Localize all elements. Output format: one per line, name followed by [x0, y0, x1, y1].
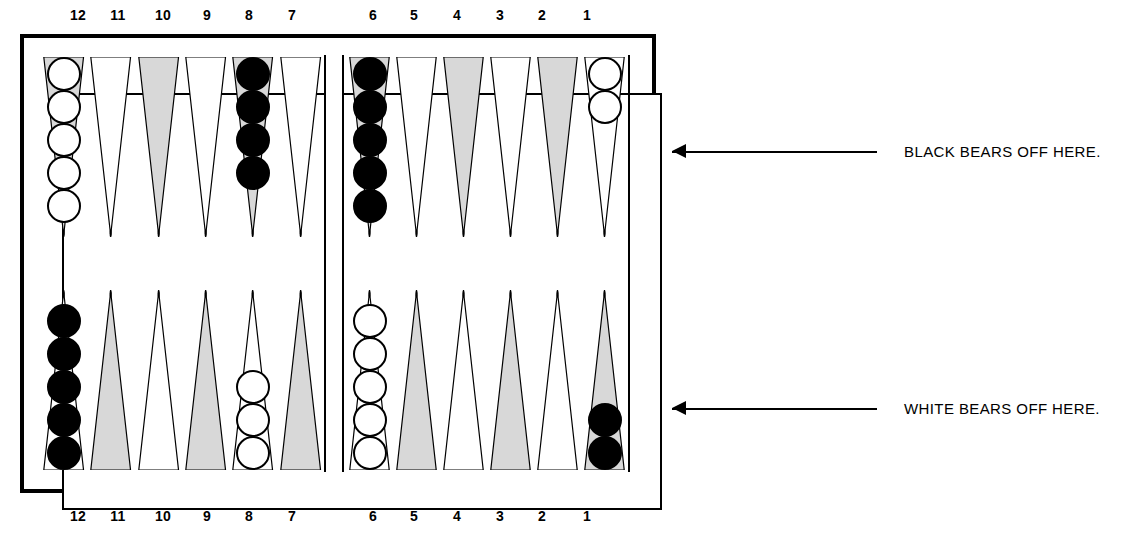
checker-stack[interactable]	[346, 305, 393, 470]
checker-black[interactable]	[47, 370, 81, 404]
point-label-top-5: 5	[402, 4, 426, 26]
checker-stack[interactable]	[40, 305, 87, 470]
point-1[interactable]	[581, 57, 628, 237]
point-4[interactable]	[440, 57, 487, 237]
checker-black[interactable]	[47, 403, 81, 437]
checker-white[interactable]	[236, 370, 270, 404]
point-6[interactable]	[346, 57, 393, 237]
quadrant-bottom-left	[40, 290, 324, 470]
point-5[interactable]	[393, 290, 440, 470]
point-apex-nib	[63, 229, 65, 237]
point-label-top-2: 2	[530, 4, 554, 26]
checker-white[interactable]	[47, 156, 81, 190]
point-label-bottom-6: 6	[361, 505, 385, 527]
point-2[interactable]	[534, 57, 581, 237]
point-2[interactable]	[534, 290, 581, 470]
checker-white[interactable]	[353, 337, 387, 371]
checker-black[interactable]	[47, 304, 81, 338]
checker-black[interactable]	[588, 436, 622, 470]
point-10[interactable]	[135, 290, 182, 470]
point-shape	[135, 57, 182, 237]
checker-black[interactable]	[353, 90, 387, 124]
point-apex-nib	[415, 229, 417, 237]
point-12[interactable]	[40, 290, 87, 470]
point-triangle	[91, 57, 131, 235]
checker-black[interactable]	[236, 123, 270, 157]
point-triangle	[491, 292, 530, 470]
checker-black[interactable]	[236, 57, 270, 91]
checker-stack[interactable]	[581, 57, 628, 123]
backgammon-diagram: 121110987654321 121110987654321 BLACK BE…	[0, 0, 1129, 537]
point-triangle	[138, 292, 178, 470]
point-apex-nib	[110, 290, 112, 298]
point-apex-nib	[603, 290, 605, 298]
checker-black[interactable]	[47, 337, 81, 371]
checker-white[interactable]	[588, 90, 622, 124]
point-12[interactable]	[40, 57, 87, 237]
point-9[interactable]	[182, 290, 229, 470]
point-6[interactable]	[346, 290, 393, 470]
point-label-top-4: 4	[445, 4, 469, 26]
point-triangle	[491, 57, 530, 235]
point-4[interactable]	[440, 290, 487, 470]
checker-stack[interactable]	[581, 404, 628, 470]
point-apex-nib	[110, 229, 112, 237]
point-8[interactable]	[229, 290, 276, 470]
checker-black[interactable]	[353, 189, 387, 223]
point-labels-top: 121110987654321	[0, 4, 680, 26]
point-7[interactable]	[277, 57, 324, 237]
checker-white[interactable]	[353, 436, 387, 470]
point-labels-bottom: 121110987654321	[0, 505, 680, 527]
checker-black[interactable]	[353, 57, 387, 91]
point-3[interactable]	[487, 57, 534, 237]
point-shape	[487, 57, 534, 237]
point-3[interactable]	[487, 290, 534, 470]
checker-white[interactable]	[236, 436, 270, 470]
checker-black[interactable]	[588, 403, 622, 437]
point-shape	[182, 57, 229, 237]
checker-black[interactable]	[353, 123, 387, 157]
checker-white[interactable]	[353, 304, 387, 338]
point-9[interactable]	[182, 57, 229, 237]
point-triangle	[186, 57, 226, 235]
checker-black[interactable]	[47, 436, 81, 470]
point-shape	[393, 290, 440, 470]
point-shape	[87, 57, 134, 237]
point-11[interactable]	[87, 57, 134, 237]
point-11[interactable]	[87, 290, 134, 470]
checker-white[interactable]	[353, 370, 387, 404]
point-label-top-1: 1	[575, 4, 599, 26]
checker-white[interactable]	[47, 90, 81, 124]
point-label-bottom-1: 1	[575, 505, 599, 527]
checker-stack[interactable]	[40, 57, 87, 222]
annotation-line	[672, 151, 877, 153]
checker-white[interactable]	[47, 189, 81, 223]
point-triangle	[280, 292, 320, 470]
point-1[interactable]	[581, 290, 628, 470]
point-label-bottom-8: 8	[237, 505, 261, 527]
point-label-bottom-4: 4	[445, 505, 469, 527]
point-8[interactable]	[229, 57, 276, 237]
checker-white[interactable]	[47, 57, 81, 91]
point-5[interactable]	[393, 57, 440, 237]
point-apex-nib	[252, 290, 254, 298]
point-10[interactable]	[135, 57, 182, 237]
checker-stack[interactable]	[346, 57, 393, 222]
annotation-white-bears-off: WHITE BEARS OFF HERE.	[672, 399, 1122, 419]
point-apex-nib	[157, 229, 159, 237]
checker-white[interactable]	[353, 403, 387, 437]
checker-white[interactable]	[588, 57, 622, 91]
checker-stack[interactable]	[229, 371, 276, 470]
point-label-bottom-7: 7	[280, 505, 304, 527]
checker-white[interactable]	[47, 123, 81, 157]
checker-black[interactable]	[236, 156, 270, 190]
point-label-bottom-12: 12	[66, 505, 90, 527]
checker-black[interactable]	[353, 156, 387, 190]
annotation-white-label: WHITE BEARS OFF HERE.	[904, 399, 1100, 419]
point-7[interactable]	[277, 290, 324, 470]
checker-stack[interactable]	[229, 57, 276, 189]
checker-white[interactable]	[236, 403, 270, 437]
point-apex-nib	[509, 290, 511, 298]
point-label-top-9: 9	[195, 4, 219, 26]
checker-black[interactable]	[236, 90, 270, 124]
